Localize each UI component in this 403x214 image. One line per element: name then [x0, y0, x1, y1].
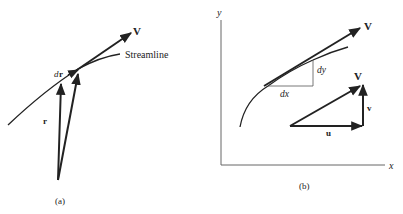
u-component-label: u [326, 128, 331, 138]
panel-b: y x V dx dy V v u (b) [216, 7, 394, 191]
v-component-label: v [367, 103, 372, 113]
dr-label-r: r [59, 69, 63, 79]
position-label-r: r [43, 116, 47, 126]
resultant-velocity-label: V [354, 70, 362, 82]
streamline-label: Streamline [125, 49, 169, 60]
velocity-label-a: V [133, 25, 141, 37]
streamline-diagram: V Streamline d r r (a) y x V dx dy V v u… [0, 0, 403, 214]
velocity-arrow-b [264, 28, 360, 86]
y-axis-label: y [216, 7, 222, 18]
dx-label: dx [280, 89, 290, 99]
velocity-label-b: V [364, 20, 372, 32]
resultant-velocity-arrow [290, 86, 360, 126]
caption-a: (a) [55, 196, 65, 206]
x-axis-label: x [388, 160, 394, 171]
velocity-arrow [74, 33, 131, 72]
caption-b: (b) [299, 181, 310, 191]
streamline-curve [8, 54, 120, 125]
streamline-curve-b [240, 47, 348, 127]
dr-arrow [68, 70, 78, 75]
panel-a: V Streamline d r r (a) [8, 25, 169, 206]
dy-label: dy [317, 65, 327, 75]
